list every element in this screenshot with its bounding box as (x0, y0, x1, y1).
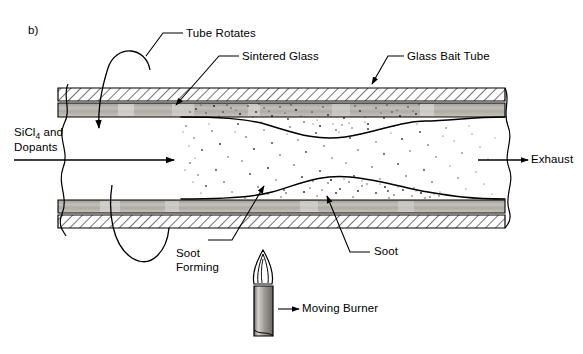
soot-particles (182, 103, 495, 198)
inlet-formula-sicl4: SiCl (14, 126, 36, 138)
label-exhaust: Exhaust (531, 153, 573, 167)
label-moving-burner: Moving Burner (302, 302, 378, 316)
label-glass-bait-tube: Glass Bait Tube (407, 50, 490, 64)
tube-bottom-wall (58, 215, 505, 228)
label-inlet-reactants: SiCl4 and Dopants (14, 126, 63, 154)
inlet-formula-and: and (40, 126, 63, 138)
figure-canvas: b) Tube Rotates Sintered Glass Glass Bai… (0, 0, 583, 354)
soot-deposit-contours (181, 117, 505, 199)
inlet-formula-subscript: 4 (36, 131, 41, 141)
panel-label: b) (28, 24, 38, 36)
label-tube-rotates: Tube Rotates (186, 27, 256, 41)
inlet-dopants: Dopants (14, 141, 58, 153)
label-soot: Soot (374, 245, 398, 259)
tube-top-wall (58, 88, 505, 101)
soot-forming-line-2: Forming (176, 261, 219, 273)
moving-burner (253, 250, 273, 336)
soot-forming-line-1: Soot (176, 247, 200, 259)
sintered-glass-layer-bottom (58, 200, 505, 213)
sintered-glass-layer-top (58, 103, 505, 117)
label-sintered-glass: Sintered Glass (242, 50, 319, 64)
label-soot-forming: Soot Forming (176, 247, 219, 274)
tube-right-broken-edge (505, 88, 511, 228)
tube-rotation-arrows (99, 51, 169, 262)
